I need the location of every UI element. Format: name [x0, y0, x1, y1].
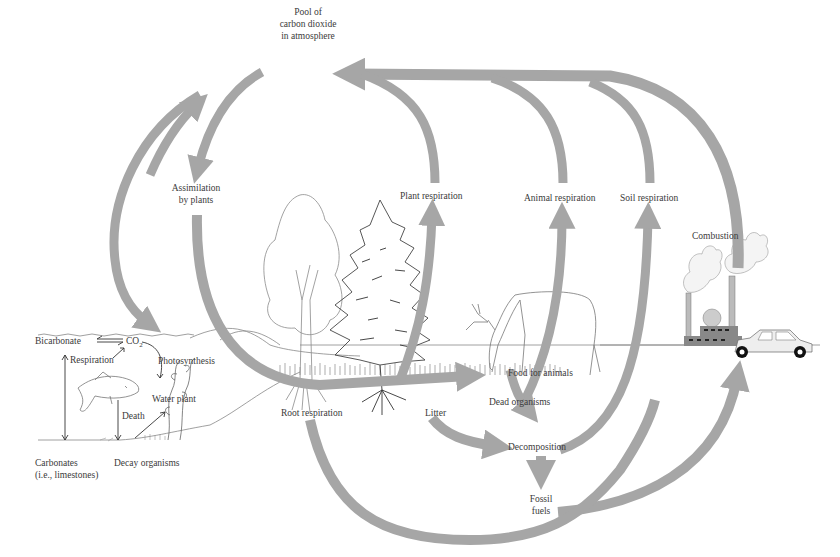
arrow-ocean-atmosphere-exchange [114, 95, 200, 323]
dome [703, 309, 721, 327]
label-line: Assimilation [172, 182, 221, 194]
label-soil-respiration: Soil respiration [620, 192, 678, 204]
arrow-decomposition-to-soil-respiration [560, 218, 648, 450]
label-line: fuels [530, 505, 553, 517]
label-carbonates: Carbonates (i.e., limestones) [35, 457, 98, 481]
deer-illustration [466, 292, 600, 375]
label-assimilation: Assimilation by plants [172, 182, 221, 206]
arrow-plant-respiration-up [362, 74, 435, 183]
label-line: Pool of [280, 6, 337, 18]
label-atmosphere-pool: Pool of carbon dioxide in atmosphere [280, 6, 337, 42]
label-photosynthesis: Photosynthesis [158, 355, 215, 367]
car-illustration [735, 330, 812, 358]
label-line: (i.e., limestones) [35, 469, 98, 481]
label-animal-respiration: Animal respiration [524, 192, 596, 204]
label-bicarbonate: Bicarbonate [35, 335, 81, 347]
arrow-tree-to-plant-respiration [400, 215, 432, 380]
label-fossil-fuels: Fossil fuels [530, 493, 553, 517]
bicarbonate-co2-equilibrium-arrow-top [97, 336, 123, 339]
bicarbonate-co2-equilibrium-arrow-bottom [97, 342, 123, 345]
respiration-arrow [113, 348, 124, 358]
label-death: Death [122, 410, 145, 422]
label-water-plant: Water plant [152, 393, 196, 405]
arrow-atmosphere-to-assimilation [198, 72, 262, 168]
flow-arrows [114, 72, 738, 540]
co2-text: CO [126, 336, 139, 346]
label-decay-organisms: Decay organisms [114, 457, 180, 469]
death-arrow [115, 400, 121, 440]
label-food-for-animals: Food for animals [508, 367, 573, 379]
label-litter: Litter [425, 407, 446, 419]
sediment-marks [100, 434, 165, 441]
label-line: carbon dioxide [280, 18, 337, 30]
label-line: Carbonates [35, 457, 98, 469]
arrow-fossil-fuels-to-combustion [558, 378, 737, 512]
label-line: by plants [172, 194, 221, 206]
label-combustion: Combustion [692, 230, 738, 242]
co2-subscript: 2 [139, 341, 143, 349]
label-line: in atmosphere [280, 30, 337, 42]
carbonate-bicarbonate-arrow [62, 355, 68, 440]
fish-illustration [78, 372, 139, 411]
carbon-cycle-diagram [0, 0, 840, 557]
arrow-soil-respiration-up [590, 82, 650, 183]
aquatic-arrows [62, 336, 165, 440]
chimney-left [686, 293, 691, 338]
label-line: Fossil [530, 493, 553, 505]
label-root-respiration: Root respiration [281, 407, 342, 419]
label-respiration: Respiration [70, 354, 114, 366]
label-co2: CO2 [126, 335, 143, 351]
arrow-litter-to-decomposition [432, 418, 495, 446]
label-plant-respiration: Plant respiration [400, 190, 463, 202]
label-dead-organisms: Dead organisms [489, 396, 550, 408]
label-decomposition: Decomposition [508, 441, 566, 453]
chimney-right [729, 276, 735, 334]
arrow-animal-respiration-up [492, 78, 563, 183]
